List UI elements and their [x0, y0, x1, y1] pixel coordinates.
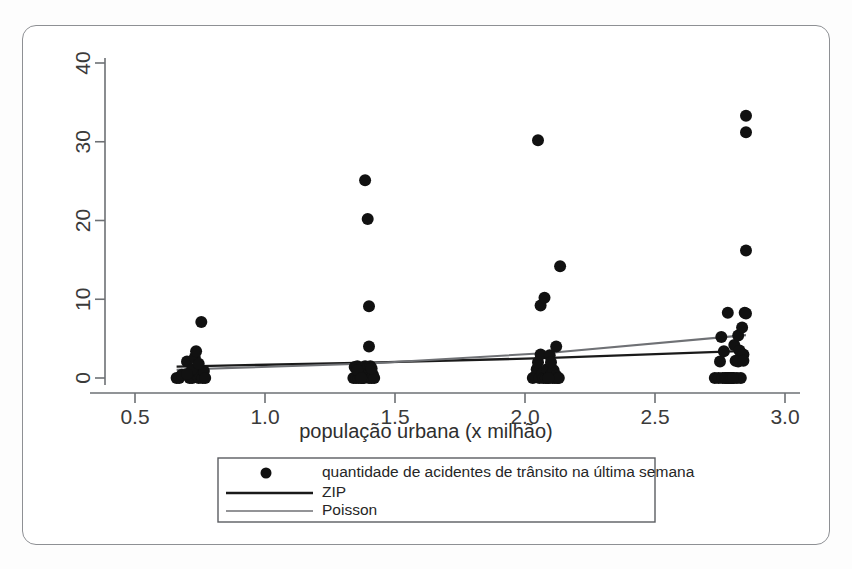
- y-tick-group: 010203040: [71, 51, 106, 384]
- legend-label: ZIP: [322, 483, 346, 500]
- data-point: [722, 307, 734, 319]
- data-point: [355, 372, 367, 384]
- data-point: [363, 300, 375, 312]
- data-point: [539, 292, 551, 304]
- data-point: [542, 372, 554, 384]
- legend: quantidade de acidentes de trânsito na ú…: [218, 458, 695, 522]
- x-tick-label: 3.0: [770, 405, 799, 428]
- data-point: [727, 372, 739, 384]
- data-point: [199, 372, 211, 384]
- figure-page: 010203040 0.51.01.52.02.53.0 população u…: [0, 0, 852, 569]
- data-point: [359, 174, 371, 186]
- y-tick-label: 40: [71, 51, 94, 74]
- data-point: [181, 368, 193, 380]
- legend-label: quantidade de acidentes de trânsito na ú…: [322, 463, 695, 480]
- data-point: [362, 213, 374, 225]
- data-point: [714, 355, 726, 367]
- data-point: [553, 372, 565, 384]
- data-point: [190, 345, 202, 357]
- data-point: [740, 110, 752, 122]
- data-point: [737, 355, 749, 367]
- y-tick-label: 20: [71, 209, 94, 232]
- data-point: [193, 358, 205, 370]
- data-point: [740, 126, 752, 138]
- data-point: [554, 260, 566, 272]
- data-series-layer: [171, 110, 752, 384]
- data-point: [736, 322, 748, 334]
- data-point: [740, 307, 752, 319]
- scatter-plot: 010203040 0.51.01.52.02.53.0 população u…: [0, 0, 852, 569]
- y-tick-label: 0: [71, 372, 94, 384]
- data-point: [363, 341, 375, 353]
- data-point: [550, 341, 562, 353]
- x-axis-title: população urbana (x milhão): [299, 420, 553, 442]
- y-tick-label: 10: [71, 288, 94, 311]
- x-tick-label: 0.5: [120, 405, 149, 428]
- legend-marker-dot: [261, 468, 272, 479]
- data-point: [740, 244, 752, 256]
- y-axis: 010203040: [71, 51, 106, 385]
- x-tick-label: 1.0: [250, 405, 279, 428]
- data-point: [718, 345, 730, 357]
- data-point: [545, 356, 557, 368]
- y-tick-label: 30: [71, 130, 94, 153]
- data-point: [366, 363, 378, 375]
- data-point: [532, 134, 544, 146]
- legend-label: Poisson: [322, 501, 377, 518]
- data-point: [195, 316, 207, 328]
- x-tick-label: 2.5: [640, 405, 669, 428]
- data-point: [715, 331, 727, 343]
